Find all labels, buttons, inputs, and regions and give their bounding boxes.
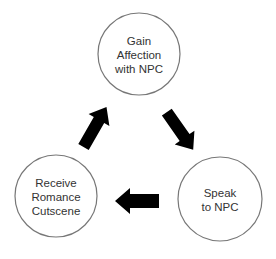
node-label-receive: Receive Romance Cutscene xyxy=(31,176,80,218)
arrow-gain-to-speak-icon xyxy=(157,105,203,156)
arrow-receive-to-gain-icon xyxy=(73,101,117,153)
arrow-speak-to-receive-icon xyxy=(115,188,159,214)
node-label-gain: Gain Affection with NPC xyxy=(115,34,163,76)
node-label-speak: Speak to NPC xyxy=(201,186,238,214)
